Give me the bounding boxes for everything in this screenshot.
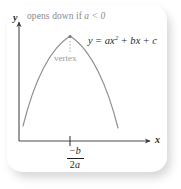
parabola-equation-label: y = ax2 + bx + c	[88, 36, 157, 47]
vertex-label: vertex	[54, 54, 77, 63]
fraction-numerator: −b	[60, 146, 90, 157]
equation-term-bx: bx	[130, 35, 140, 46]
caption-text: opens down if	[27, 11, 82, 21]
fraction-denominator: 2a	[60, 160, 90, 171]
equation-term-c: c	[152, 35, 157, 46]
opens-down-caption: opens down ifa < 0	[27, 12, 105, 22]
equation-plus-2: +	[143, 35, 149, 46]
quadratic-parabola-figure: y x opens down ifa < 0 y = ax2 + bx + c …	[0, 0, 181, 189]
fraction-denominator-variable: a	[75, 159, 80, 170]
vertex-x-coordinate-fraction: −b 2a	[60, 146, 90, 170]
equation-equals: =	[96, 35, 102, 46]
equation-plus-1: +	[121, 35, 127, 46]
x-axis-label: x	[155, 135, 160, 145]
y-axis-label: y	[13, 13, 17, 23]
caption-condition: a < 0	[82, 11, 105, 21]
equation-lhs: y	[88, 35, 93, 46]
equation-exponent: 2	[115, 34, 118, 41]
